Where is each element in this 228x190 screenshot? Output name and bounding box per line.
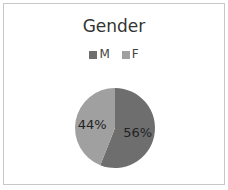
data-label-m: 56% [123, 125, 152, 140]
data-label-f: 44% [78, 117, 107, 132]
pie-chart: 56%44% [0, 0, 228, 190]
